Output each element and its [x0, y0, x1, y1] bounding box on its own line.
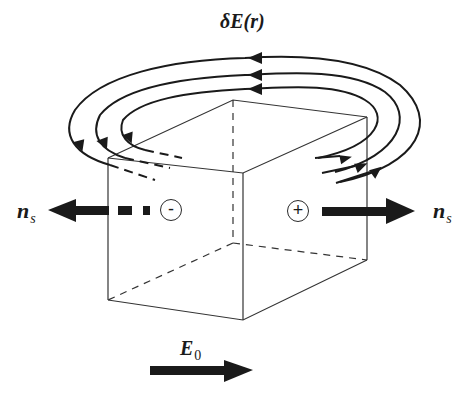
- box-hidden-edges: [108, 100, 367, 300]
- ns-left-label: ns: [17, 198, 36, 227]
- ns-arrow-right: [322, 198, 415, 224]
- applied-field-main: E: [180, 337, 193, 359]
- applied-field-arrow: [150, 360, 253, 382]
- diagram-canvas: δE(r) ns ns E0 - +: [0, 0, 470, 395]
- ns-left-sub: s: [30, 211, 35, 226]
- diagram-graphics: [0, 0, 470, 395]
- applied-field-label: E0: [180, 337, 201, 364]
- positive-charge-icon: +: [287, 200, 309, 222]
- ns-left-main: n: [17, 198, 29, 223]
- field-loop-inner: [121, 87, 377, 158]
- ns-right-label: ns: [433, 198, 452, 227]
- field-perturbation-label: δE(r): [220, 10, 265, 33]
- ns-arrow-left: [48, 199, 150, 222]
- ns-right-main: n: [433, 198, 445, 223]
- loop-arrowheads: [73, 52, 385, 180]
- applied-field-sub: 0: [194, 348, 201, 363]
- ns-right-sub: s: [446, 211, 451, 226]
- negative-charge-icon: -: [160, 199, 182, 221]
